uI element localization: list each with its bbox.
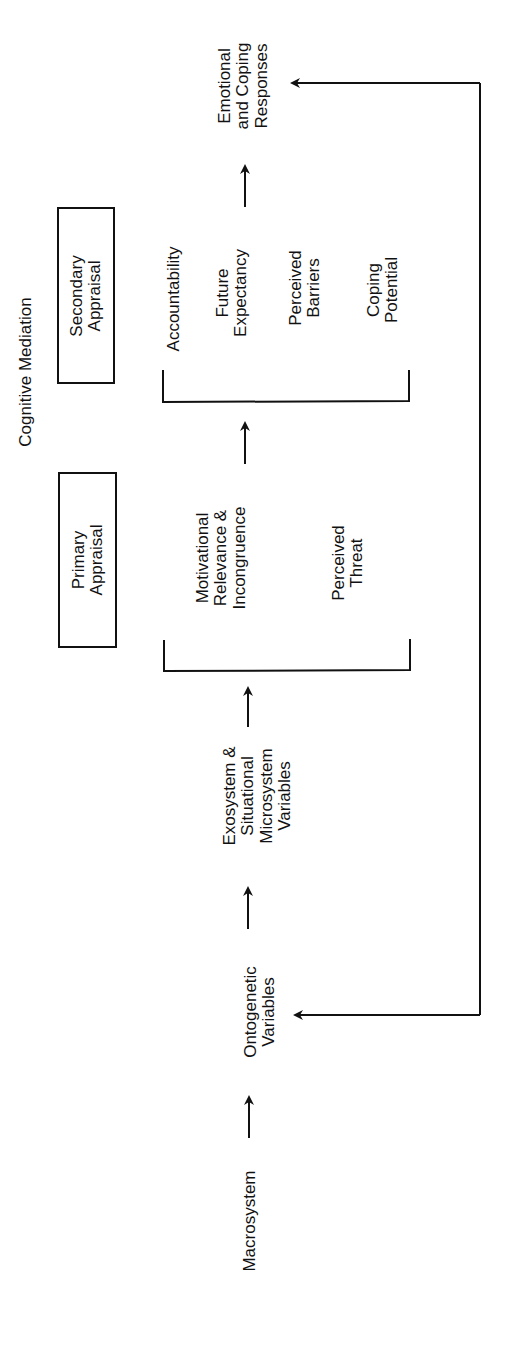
motivational-relevance-label: Motivational Relevance & Incongruence	[194, 506, 249, 609]
exosystem-label: Exosystem & Situational Microsystem Vari…	[221, 746, 294, 845]
perceived-barriers-label: Perceived Barriers	[287, 250, 324, 326]
macrosystem-label: Macrosystem	[241, 1170, 259, 1271]
primary-appraisal-label: Primary Appraisal	[70, 525, 107, 596]
secondary-appraisal-bracket	[163, 370, 409, 402]
diagram-connectors	[0, 0, 507, 1348]
future-expectancy-label: Future Expectancy	[214, 249, 251, 337]
accountability-label: Accountability	[165, 247, 183, 352]
perceived-threat-label: Perceived Threat	[330, 525, 367, 601]
ontogenetic-variables-label: Ontogenetic Variables	[242, 966, 279, 1058]
emotional-coping-responses-label: Emotional and Coping Responses	[216, 43, 271, 130]
coping-potential-label: Coping Potential	[365, 257, 402, 323]
secondary-appraisal-label: Secondary Appraisal	[68, 255, 105, 336]
primary-appraisal-bracket	[164, 639, 410, 671]
cognitive-mediation-title: Cognitive Mediation	[17, 297, 35, 446]
